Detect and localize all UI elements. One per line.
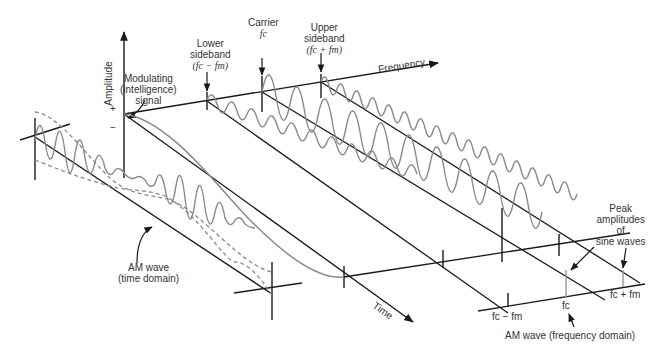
minus-sign: −: [110, 122, 116, 133]
am-time-label: AM wave (time domain): [118, 262, 179, 284]
carrier-label: Carrier fc: [248, 17, 279, 39]
upper-sideband-wave: [321, 77, 577, 200]
fc-label: fc: [562, 300, 570, 311]
fc-plus-fm-label: fc + fm: [610, 289, 640, 300]
am-frequency-label: AM wave (frequency domain): [505, 330, 635, 341]
am-wave-time-domain: [35, 125, 255, 228]
peak-amplitudes-label: Peak amplitudes of sine waves: [596, 203, 645, 247]
fc-minus-fm-label: fc − fm: [492, 311, 522, 322]
plus-sign: +: [110, 103, 116, 114]
amplitude-axis-label: Amplitude: [103, 61, 114, 105]
carrier-wave: [262, 75, 542, 228]
lower-sideband-label: Lower sideband (fc − fm): [190, 38, 231, 71]
time-axis: [124, 114, 413, 322]
upper-sideband-label: Upper sideband (fc + fm): [304, 22, 345, 55]
modulating-label: Modulating (intelligence) signal: [120, 73, 177, 106]
